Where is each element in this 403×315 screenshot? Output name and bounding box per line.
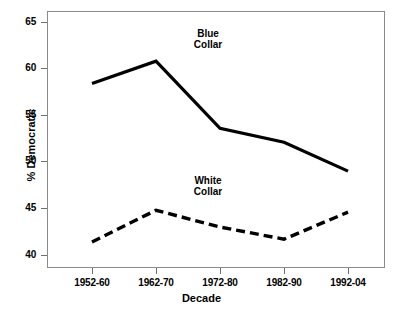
annotation-blue-collar: Blue Collar: [163, 28, 253, 50]
series-line-blue-collar: [92, 61, 348, 171]
line-chart: 65 60 55 50 45 40 % Democratic 1952-60 1…: [0, 0, 403, 315]
series-line-white-collar: [92, 210, 348, 242]
annotation-white-collar: White Collar: [163, 175, 253, 197]
